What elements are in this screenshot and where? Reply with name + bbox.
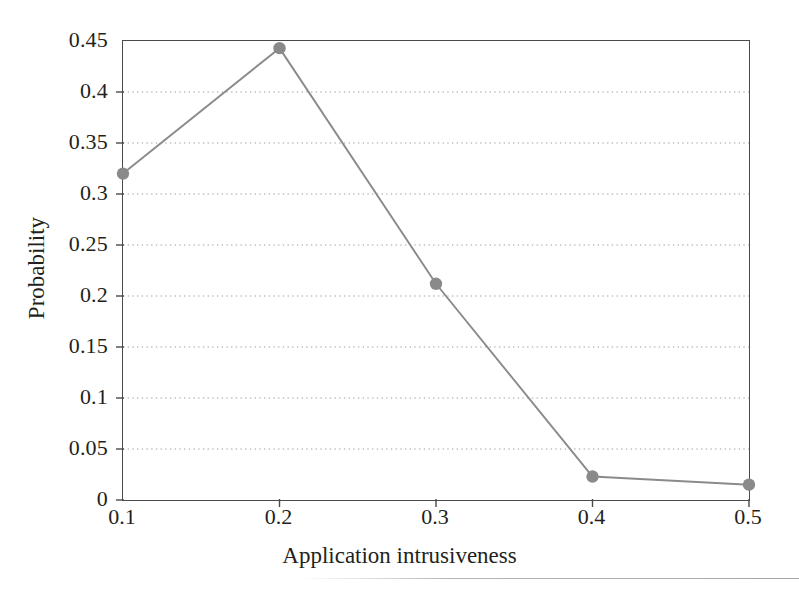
data-series-layer bbox=[123, 41, 749, 500]
y-tick-label: 0.15 bbox=[69, 335, 108, 357]
x-tick-label: 0.2 bbox=[265, 506, 293, 528]
y-tick-label: 0.25 bbox=[69, 233, 108, 255]
data-line bbox=[123, 48, 749, 485]
y-tick-label: 0.05 bbox=[69, 437, 108, 459]
y-tick-label: 0.4 bbox=[80, 80, 108, 102]
x-tick-label: 0.3 bbox=[421, 506, 449, 528]
x-tick-label: 0.4 bbox=[578, 506, 606, 528]
y-tick-label: 0.45 bbox=[69, 29, 108, 51]
data-point-marker bbox=[743, 479, 755, 491]
x-axis-title: Application intrusiveness bbox=[0, 543, 799, 569]
y-axis-tick-labels: 00.050.10.150.20.250.30.350.40.45 bbox=[0, 0, 108, 590]
data-point-marker bbox=[117, 167, 129, 179]
y-tick-label: 0 bbox=[97, 488, 108, 510]
y-tick-label: 0.35 bbox=[69, 131, 108, 153]
plot-area bbox=[122, 40, 750, 501]
y-tick-label: 0.1 bbox=[80, 386, 108, 408]
data-point-marker bbox=[586, 470, 598, 482]
y-tick-label: 0.3 bbox=[80, 182, 108, 204]
x-tick-label: 0.5 bbox=[734, 506, 762, 528]
data-point-marker bbox=[273, 42, 285, 54]
y-axis-title: Probability bbox=[24, 188, 50, 348]
scan-edge-artifact bbox=[300, 578, 799, 579]
data-point-marker bbox=[430, 278, 442, 290]
x-tick-label: 0.1 bbox=[108, 506, 136, 528]
chart-figure: 00.050.10.150.20.250.30.350.40.45 Probab… bbox=[0, 0, 799, 590]
y-tick-label: 0.2 bbox=[80, 284, 108, 306]
